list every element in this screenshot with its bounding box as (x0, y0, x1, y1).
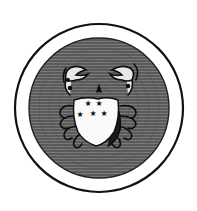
svg-text:★: ★ (76, 110, 83, 119)
svg-text:★: ★ (100, 109, 107, 118)
svg-text:★: ★ (89, 109, 96, 118)
cancer-emblem: ★ ★ ★ ★ ★ (0, 0, 197, 211)
svg-text:★: ★ (95, 99, 102, 108)
svg-text:★: ★ (84, 99, 91, 108)
